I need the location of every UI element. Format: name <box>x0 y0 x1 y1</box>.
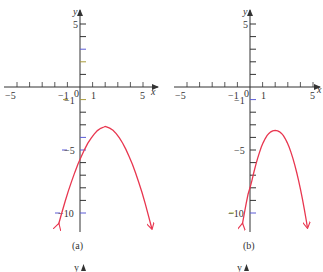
y-tick-label-neg1: −1 <box>64 95 75 106</box>
y-tick-label-neg1: −1 <box>234 95 245 106</box>
x-tick-label-5: 5 <box>310 90 315 101</box>
x-tick-label-neg5: −5 <box>175 90 186 101</box>
x-tick-label-1: 1 <box>261 90 266 101</box>
partial-y-arrow-left-icon <box>81 264 86 271</box>
y-tick-label-neg5: −5 <box>64 145 75 156</box>
partial-y-label-left: y <box>74 262 79 272</box>
caption-a: (a) <box>72 240 83 252</box>
y-tick-label-5: 5 <box>243 19 248 30</box>
x-axis-label: x <box>150 86 156 97</box>
x-axis-label: x <box>316 84 322 95</box>
x-tick-label-neg5: −5 <box>5 90 16 101</box>
caption-b: (b) <box>243 240 255 252</box>
graphs-figure: y 5 −5 −1 0 1 5 x −1 −5 −10 (a) <box>0 0 323 272</box>
y-tick-label-neg5: −5 <box>234 145 245 156</box>
origin-label: 0 <box>244 88 249 99</box>
y-tick-label-neg10: −10 <box>228 208 244 219</box>
y-axis-label: y <box>72 6 78 17</box>
y-axis-label: y <box>242 6 248 17</box>
x-tick-label-5: 5 <box>140 90 145 101</box>
origin-label: 0 <box>74 88 79 99</box>
graph-a: y 5 −5 −1 0 1 5 x −1 −5 −10 (a) <box>4 6 158 252</box>
graph-b: y 5 −5 −1 0 1 5 x −1 −5 −10 (b) <box>174 6 322 252</box>
partial-y-label-right: y <box>237 262 242 272</box>
y-ticks <box>229 24 256 213</box>
x-tick-label-1: 1 <box>91 90 96 101</box>
y-tick-label-5: 5 <box>73 19 78 30</box>
partial-y-arrow-right-icon <box>244 264 249 271</box>
